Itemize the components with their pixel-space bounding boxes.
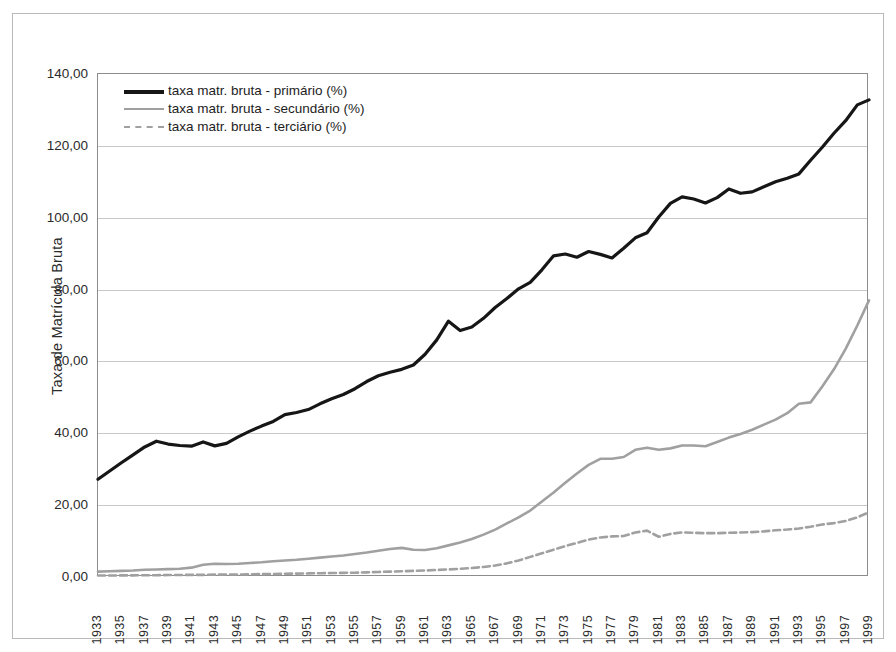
x-tick-label: 1957 — [370, 615, 384, 644]
x-tick-label: 1961 — [417, 615, 431, 644]
x-tick-label: 1985 — [697, 615, 711, 644]
legend-label-terciario: taxa matr. bruta - terciário (%) — [168, 118, 347, 135]
legend-line-primario-icon — [122, 83, 166, 99]
x-tick-label: 1947 — [254, 615, 268, 644]
legend-item-primario: taxa matr. bruta - primário (%) — [122, 82, 452, 99]
x-tick-label: 1979 — [627, 615, 641, 644]
x-tick-label: 1975 — [581, 615, 595, 644]
x-tick-label: 1933 — [90, 615, 104, 644]
x-tick-label: 1991 — [768, 615, 782, 644]
x-tick-label: 1989 — [744, 615, 758, 644]
y-tick-label: 60,00 — [54, 353, 88, 368]
chart-legend: taxa matr. bruta - primário (%) taxa mat… — [122, 82, 452, 136]
x-axis-tick-labels: 1933193519371939194119431945194719491951… — [97, 582, 868, 644]
x-tick-label: 1997 — [838, 615, 852, 644]
y-tick-label: 40,00 — [54, 425, 88, 440]
series-line — [98, 512, 869, 575]
series-lines — [98, 74, 869, 577]
y-tick-label: 120,00 — [47, 137, 88, 152]
legend-item-terciario: taxa matr. bruta - terciário (%) — [122, 118, 452, 135]
x-tick-label: 1949 — [277, 615, 291, 644]
x-tick-label: 1969 — [511, 615, 525, 644]
plot-area — [97, 73, 868, 576]
x-tick-label: 1951 — [300, 615, 314, 644]
y-tick-label: 20,00 — [54, 497, 88, 512]
x-tick-label: 1959 — [394, 615, 408, 644]
x-tick-label: 1945 — [230, 615, 244, 644]
x-tick-label: 1977 — [604, 615, 618, 644]
x-tick-label: 1999 — [861, 615, 875, 644]
x-tick-label: 1973 — [557, 615, 571, 644]
legend-label-secundario: taxa matr. bruta - secundário (%) — [168, 100, 365, 117]
x-tick-label: 1935 — [113, 615, 127, 644]
x-tick-label: 1943 — [207, 615, 221, 644]
y-tick-label: 140,00 — [47, 66, 88, 81]
x-tick-label: 1963 — [440, 615, 454, 644]
x-tick-label: 1941 — [183, 615, 197, 644]
x-tick-label: 1983 — [674, 615, 688, 644]
y-tick-label: 80,00 — [54, 281, 88, 296]
y-tick-label: 100,00 — [47, 209, 88, 224]
y-axis-tick-labels: 0,0020,0040,0060,0080,00100,00120,00140,… — [0, 0, 96, 652]
x-tick-label: 1971 — [534, 615, 548, 644]
series-line — [98, 100, 869, 479]
x-tick-label: 1939 — [160, 615, 174, 644]
legend-item-secundario: taxa matr. bruta - secundário (%) — [122, 100, 452, 117]
x-tick-label: 1967 — [487, 615, 501, 644]
chart-container: Taxa de Matrícula Bruta 0,0020,0040,0060… — [0, 0, 896, 652]
x-tick-label: 1955 — [347, 615, 361, 644]
legend-label-primario: taxa matr. bruta - primário (%) — [168, 82, 347, 99]
x-tick-label: 1993 — [791, 615, 805, 644]
legend-line-terciario-icon — [122, 119, 166, 135]
y-tick-label: 0,00 — [62, 569, 88, 584]
x-tick-label: 1981 — [651, 615, 665, 644]
x-tick-label: 1995 — [814, 615, 828, 644]
x-tick-label: 1953 — [324, 615, 338, 644]
x-tick-label: 1987 — [721, 615, 735, 644]
x-tick-label: 1965 — [464, 615, 478, 644]
x-tick-label: 1937 — [137, 615, 151, 644]
legend-line-secundario-icon — [122, 101, 166, 117]
